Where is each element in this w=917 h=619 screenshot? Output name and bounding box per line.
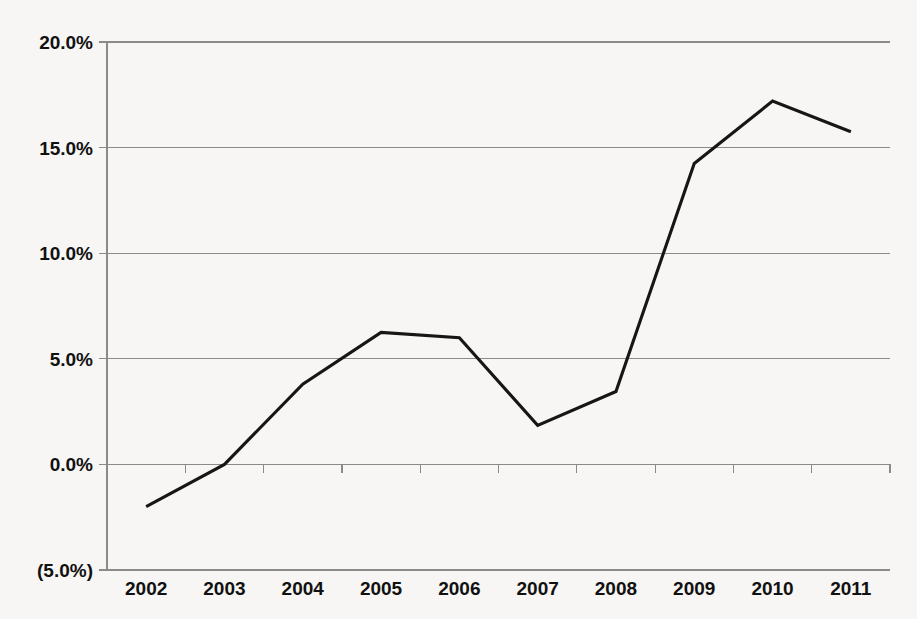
x-axis-tick-label: 2007 bbox=[517, 578, 559, 599]
x-axis-tick-label: 2008 bbox=[595, 578, 637, 599]
x-axis-tick-label: 2010 bbox=[751, 578, 793, 599]
x-axis-tick-label: 2003 bbox=[203, 578, 245, 599]
y-axis-tick-label: 10.0% bbox=[39, 243, 93, 264]
chart-background bbox=[0, 0, 917, 619]
y-axis-tick-label: 5.0% bbox=[50, 349, 93, 370]
y-axis-tick-label: 15.0% bbox=[39, 138, 93, 159]
line-chart: 20.0%15.0%10.0%5.0%0.0%(5.0%) 2002200320… bbox=[0, 0, 917, 619]
chart-container: 20.0%15.0%10.0%5.0%0.0%(5.0%) 2002200320… bbox=[0, 0, 917, 619]
x-axis-tick-label: 2011 bbox=[830, 578, 872, 599]
x-axis-tick-label: 2004 bbox=[282, 578, 325, 599]
x-axis-tick-label: 2005 bbox=[360, 578, 403, 599]
y-axis-tick-label: 20.0% bbox=[39, 32, 93, 53]
y-axis-tick-label: (5.0%) bbox=[37, 560, 93, 581]
x-axis-tick-label: 2006 bbox=[438, 578, 480, 599]
x-axis-tick-label: 2002 bbox=[125, 578, 167, 599]
x-axis-tick-label: 2009 bbox=[673, 578, 715, 599]
y-axis-tick-label: 0.0% bbox=[50, 454, 93, 475]
